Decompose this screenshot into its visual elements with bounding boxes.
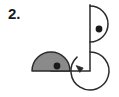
gray-filled-semicircle bbox=[32, 52, 70, 71]
top-right-semicircle-dot bbox=[96, 26, 103, 33]
geometry-figure-panel: 2. bbox=[0, 0, 119, 97]
gray-semicircle-dot bbox=[54, 63, 61, 70]
top-right-semicircle-outline bbox=[90, 6, 108, 42]
figure-drawing bbox=[0, 0, 119, 97]
